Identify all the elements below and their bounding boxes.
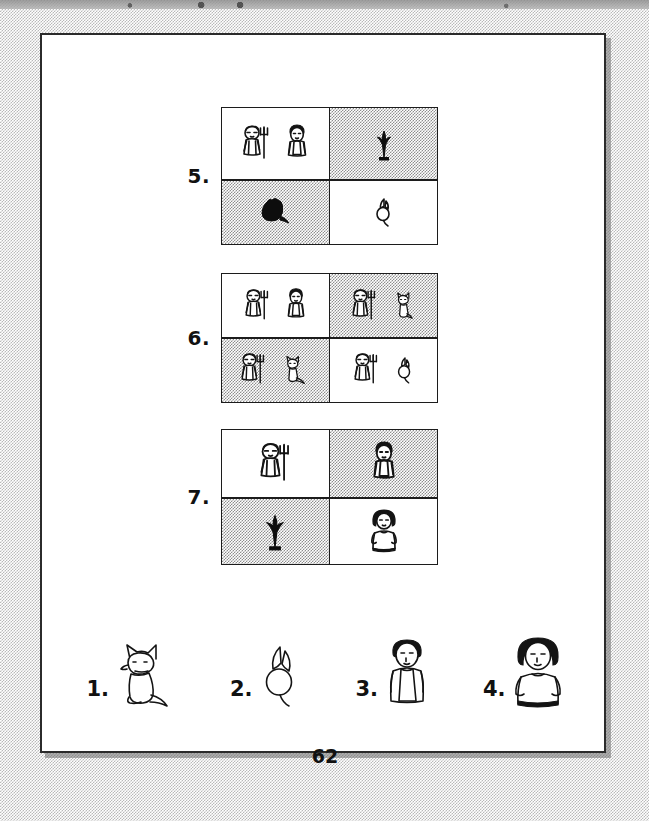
exercise-6-cell-2[interactable]	[330, 274, 437, 337]
person-in-apron-icon	[384, 637, 430, 707]
person-in-apron-icon	[285, 123, 309, 165]
woman-icon	[369, 508, 399, 554]
farmer-with-rake-icon	[350, 287, 378, 325]
dog-silhouette-icon	[258, 197, 292, 227]
farmer-with-rake-icon	[243, 287, 271, 325]
exercise-7-cell-1[interactable]	[222, 430, 329, 497]
worksheet-page: 5.	[40, 33, 606, 753]
legend-item-2-number: 2.	[230, 677, 253, 707]
farmer-with-rake-icon	[239, 351, 267, 389]
dog-icon	[281, 354, 311, 386]
exercise-5-cell-1[interactable]	[222, 108, 329, 179]
exercise-6-cell-4[interactable]	[330, 339, 437, 402]
woman-icon	[512, 635, 564, 707]
legend-item-2[interactable]: 2.	[230, 641, 303, 707]
exercise-5: 5.	[170, 107, 438, 245]
cropped-header-text-strip	[0, 0, 649, 9]
exercise-7: 7.	[170, 429, 438, 565]
exercise-5-number: 5.	[170, 164, 221, 188]
exercise-6: 6.	[170, 273, 438, 403]
plant-silhouette-icon	[374, 127, 394, 161]
legend-item-1[interactable]: 1.	[86, 641, 177, 707]
dog-icon	[392, 290, 418, 322]
legend-item-4[interactable]: 4.	[483, 635, 564, 707]
answer-key-legend: 1. 2.	[42, 635, 608, 707]
legend-item-1-number: 1.	[86, 677, 109, 707]
exercise-5-cell-4[interactable]	[330, 181, 437, 244]
exercise-6-number: 6.	[170, 326, 221, 350]
radish-icon	[372, 195, 396, 229]
exercise-7-grid	[221, 429, 438, 565]
person-in-apron-icon	[285, 287, 307, 325]
exercise-5-cell-3[interactable]	[222, 181, 329, 244]
exercise-6-cell-1[interactable]	[222, 274, 329, 337]
radish-icon	[259, 641, 303, 707]
dog-icon	[115, 641, 177, 707]
exercise-7-number: 7.	[170, 485, 221, 509]
page-number: 62	[42, 745, 608, 767]
exercise-6-cell-3[interactable]	[222, 339, 329, 402]
legend-item-3-number: 3.	[355, 677, 378, 707]
farmer-with-rake-icon	[352, 351, 380, 389]
exercise-6-grid	[221, 273, 438, 403]
exercise-7-cell-2[interactable]	[330, 430, 437, 497]
exercise-7-cell-3[interactable]	[222, 499, 329, 564]
exercise-5-cell-2[interactable]	[330, 108, 437, 179]
legend-item-3[interactable]: 3.	[355, 637, 430, 707]
person-in-apron-icon	[370, 440, 398, 488]
exercise-7-cell-4[interactable]	[330, 499, 437, 564]
plant-silhouette-icon	[263, 511, 287, 551]
exercise-5-grid	[221, 107, 438, 245]
farmer-with-rake-icon	[258, 440, 292, 488]
farmer-with-rake-icon	[241, 123, 271, 165]
legend-item-4-number: 4.	[483, 677, 506, 707]
radish-icon	[394, 354, 416, 386]
